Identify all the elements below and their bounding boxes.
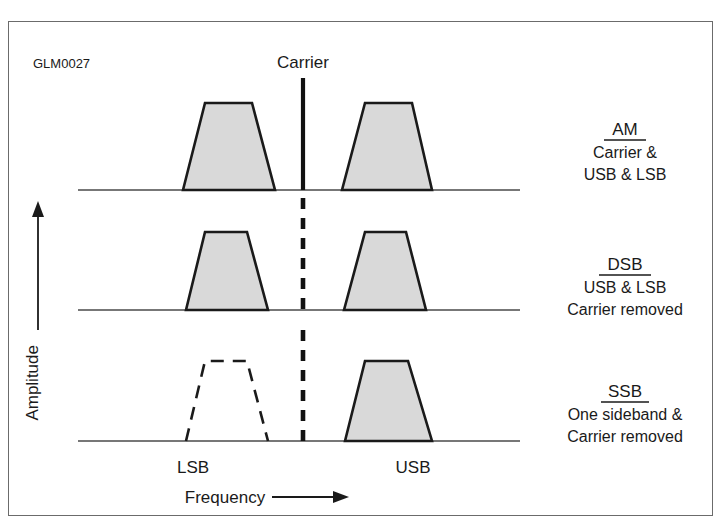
legend-ssb-line1: One sideband & xyxy=(568,406,683,423)
amplitude-axis-label: Amplitude xyxy=(23,345,42,421)
legend-am-line1: Carrier & xyxy=(593,144,657,161)
frequency-axis-label: Frequency xyxy=(185,488,266,507)
usb-band-am xyxy=(342,103,432,190)
legend-ssb-line2: Carrier removed xyxy=(567,428,683,445)
legend-ssb-title: SSB xyxy=(608,382,642,401)
x-axis: LSB USB Frequency xyxy=(177,458,431,507)
modulation-spectra-diagram: GLM0027 Carrier Amplitude xyxy=(0,0,724,530)
lsb-band-ssb xyxy=(186,361,268,441)
legend-am-title: AM xyxy=(612,120,638,139)
legend-dsb-title: DSB xyxy=(608,255,643,274)
legend-am-line2: USB & LSB xyxy=(584,166,667,183)
lsb-band-dsb xyxy=(186,232,268,310)
row-ssb xyxy=(78,330,520,441)
lsb-band-am xyxy=(183,103,275,190)
x-tick-lsb: LSB xyxy=(177,458,209,477)
carrier-label: Carrier xyxy=(277,53,329,72)
usb-band-dsb xyxy=(344,232,426,310)
amplitude-arrow-icon xyxy=(32,201,44,217)
y-axis: Amplitude xyxy=(23,201,44,421)
row-am xyxy=(78,78,520,190)
legend-am: AM Carrier & USB & LSB xyxy=(584,120,667,183)
figure-root: GLM0027 Carrier Amplitude xyxy=(0,0,724,530)
legend-dsb-line1: USB & LSB xyxy=(584,279,667,296)
legend-dsb-line2: Carrier removed xyxy=(567,301,683,318)
figure-code-label: GLM0027 xyxy=(33,56,90,71)
frequency-arrow-icon xyxy=(333,491,349,503)
usb-band-ssb xyxy=(345,361,432,441)
row-dsb xyxy=(78,198,520,310)
x-tick-usb: USB xyxy=(396,458,431,477)
legend-dsb: DSB USB & LSB Carrier removed xyxy=(567,255,683,318)
legend-ssb: SSB One sideband & Carrier removed xyxy=(567,382,683,445)
